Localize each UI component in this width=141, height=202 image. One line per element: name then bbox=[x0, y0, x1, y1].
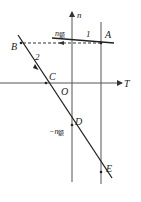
curve-2 bbox=[18, 35, 112, 178]
point-a bbox=[100, 42, 103, 45]
point-d-label: D bbox=[74, 116, 83, 127]
arrow-left-icon bbox=[58, 41, 64, 45]
curve-1-label: 1 bbox=[86, 29, 91, 39]
origin-label: O bbox=[61, 86, 68, 97]
mechanical-characteristic-diagram: n T O n额 −n额 1 2 A B C D E bbox=[0, 0, 141, 202]
point-a-label: A bbox=[104, 29, 112, 40]
point-c-label: C bbox=[49, 71, 56, 82]
curve-2-label: 2 bbox=[35, 52, 40, 62]
point-b-label: B bbox=[11, 41, 17, 52]
point-b bbox=[20, 42, 23, 45]
rated-speed-label: n额 bbox=[55, 29, 65, 39]
x-axis-label: T bbox=[124, 78, 131, 89]
point-e bbox=[100, 171, 103, 174]
y-axis-label: n bbox=[77, 10, 82, 20]
point-d bbox=[71, 124, 74, 127]
point-c bbox=[45, 82, 48, 85]
point-e-label: E bbox=[105, 163, 112, 174]
neg-rated-speed-label: −n额 bbox=[49, 127, 64, 137]
